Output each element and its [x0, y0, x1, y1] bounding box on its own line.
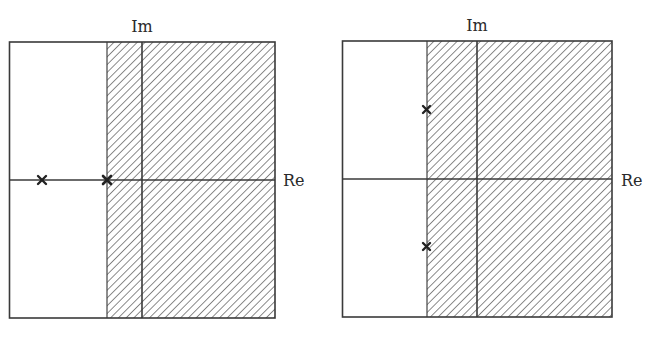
right-imag-axis-label: Im	[466, 16, 488, 35]
left-panel: Im Re	[10, 17, 305, 318]
left-real-axis-label: Re	[283, 171, 305, 190]
left-imag-axis-label: Im	[131, 17, 153, 36]
pole-zero-diagram: Im Re Im Re	[0, 0, 659, 359]
right-real-axis-label: Re	[621, 171, 643, 190]
right-panel: Im Re	[343, 16, 643, 317]
